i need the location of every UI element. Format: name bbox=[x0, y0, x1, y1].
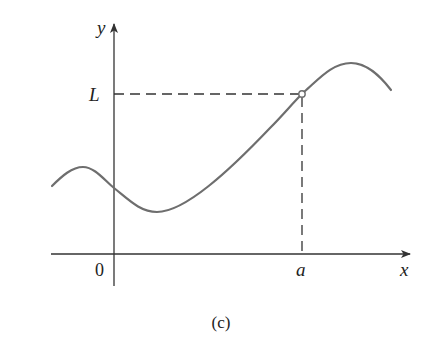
limit-diagram: y L 0 a x (c) bbox=[0, 0, 435, 356]
limit-label: L bbox=[88, 84, 100, 105]
function-curve-right bbox=[305, 63, 392, 92]
hole-open-circle bbox=[299, 91, 305, 97]
x-axis-label: x bbox=[399, 259, 409, 280]
function-curve bbox=[52, 97, 300, 213]
y-axis-label: y bbox=[95, 17, 106, 38]
a-label: a bbox=[296, 259, 306, 280]
origin-label: 0 bbox=[95, 260, 104, 280]
figure-caption: (c) bbox=[212, 313, 231, 332]
